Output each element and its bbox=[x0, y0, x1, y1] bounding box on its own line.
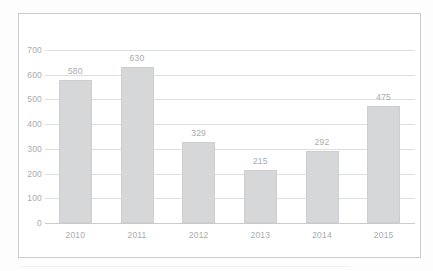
y-axis-tick-label: 400 bbox=[16, 120, 42, 129]
bar bbox=[121, 67, 154, 223]
x-axis: 201020112012201320142015 bbox=[45, 231, 415, 245]
bar-value-label: 292 bbox=[300, 138, 344, 147]
x-axis-tick-label: 2010 bbox=[53, 231, 97, 240]
bars-layer: 580630329215292475 bbox=[45, 50, 415, 223]
bar-chart-figure: 0100200300400500600700 58063032921529247… bbox=[0, 0, 433, 271]
y-axis-tick-label: 200 bbox=[16, 170, 42, 179]
y-axis-tick-label: 600 bbox=[16, 71, 42, 80]
y-axis-tick-label: 700 bbox=[16, 46, 42, 55]
bar bbox=[244, 170, 277, 223]
x-axis-tick-label: 2013 bbox=[238, 231, 282, 240]
bar-value-label: 329 bbox=[177, 129, 221, 138]
x-axis-tick-label: 2012 bbox=[177, 231, 221, 240]
y-axis-tick-label: 500 bbox=[16, 95, 42, 104]
x-axis-tick-label: 2011 bbox=[115, 231, 159, 240]
bar-value-label: 580 bbox=[53, 67, 97, 76]
bar bbox=[182, 142, 215, 223]
bar bbox=[367, 106, 400, 223]
bar-value-label: 215 bbox=[238, 157, 282, 166]
x-axis-tick-label: 2015 bbox=[362, 231, 406, 240]
bar-value-label: 630 bbox=[115, 54, 159, 63]
bar-value-label: 475 bbox=[362, 93, 406, 102]
y-axis-tick-label: 0 bbox=[16, 219, 42, 228]
y-axis: 0100200300400500600700 bbox=[14, 50, 42, 223]
x-axis-tick-label: 2014 bbox=[300, 231, 344, 240]
y-axis-tick-label: 100 bbox=[16, 194, 42, 203]
bar bbox=[59, 80, 92, 223]
bar bbox=[306, 151, 339, 223]
scan-artifact-line bbox=[20, 266, 350, 267]
axis-baseline bbox=[45, 223, 415, 224]
y-axis-tick-label: 300 bbox=[16, 145, 42, 154]
